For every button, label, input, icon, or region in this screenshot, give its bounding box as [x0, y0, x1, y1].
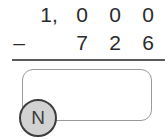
n-badge-icon[interactable]: N — [19, 99, 57, 137]
subtrahend-ones-digit: 6 — [135, 29, 161, 57]
subtrahend-thousands-digit — [36, 29, 62, 57]
minuend-ones-digit: 0 — [135, 1, 161, 29]
minus-operator-icon: – — [6, 29, 32, 57]
subtrahend-tens-digit: 2 — [102, 29, 128, 57]
subtrahend-row: – 7 2 6 — [0, 29, 168, 57]
subtrahend-hundreds-digit: 7 — [69, 29, 95, 57]
subtraction-worksheet: 1, 0 0 0 – 7 2 6 N — [0, 0, 168, 139]
minuend-tens-digit: 0 — [102, 1, 128, 29]
minuend-operator-slot — [6, 1, 32, 29]
n-badge-label: N — [31, 107, 45, 129]
minuend-hundreds-digit: 0 — [69, 1, 95, 29]
minuend-thousands-digit: 1, — [34, 1, 64, 29]
minuend-row: 1, 0 0 0 — [0, 1, 168, 29]
equation-rule — [12, 59, 165, 61]
